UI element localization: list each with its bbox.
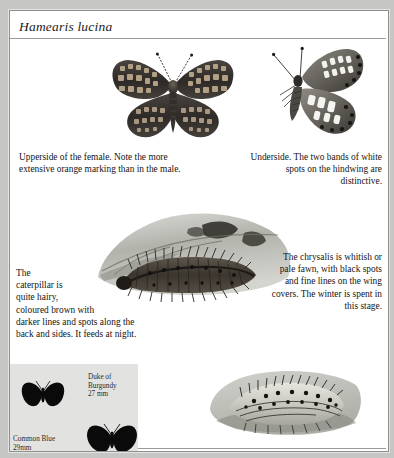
size-label-line: Common Blue xyxy=(13,435,55,444)
size-label-line: Burgundy xyxy=(88,382,117,391)
size-label-duke-of-burgundy: Duke of Burgundy 27 mm xyxy=(88,373,117,399)
page-title: Hamearis lucina xyxy=(19,19,112,35)
caption-line: quite hairy, xyxy=(16,291,226,303)
bottom-divider xyxy=(138,448,386,449)
size-label-line: Duke of xyxy=(88,373,117,382)
size-label-common-blue: Common Blue 29mm xyxy=(13,435,55,452)
size-label-measurement: 29mm xyxy=(13,444,55,452)
size-comparison-panel: Duke of Burgundy 27 mm Common Blue 29mm xyxy=(10,364,138,451)
caption-underside: Underside. The two bands of white spots … xyxy=(242,151,382,188)
size-label-measurement: 27 mm xyxy=(88,390,117,399)
caption-line: back and sides. It feeds at night. xyxy=(16,328,226,340)
caption-line: caterpillar is xyxy=(16,279,226,291)
caption-line: coloured brown with xyxy=(16,304,226,316)
butterfly-silhouette-common-blue xyxy=(86,421,138,452)
caption-caterpillar: The caterpillar is quite hairy, coloured… xyxy=(16,267,226,340)
caption-chrysalis: The chrysalis is whitish or pale fawn, w… xyxy=(268,251,382,312)
chrysalis-illustration xyxy=(206,363,366,441)
guide-page: Hamearis lucina xyxy=(0,0,394,458)
caption-line: darker lines and spots along the xyxy=(16,316,226,328)
caption-line: The xyxy=(16,267,226,279)
page-sheet: Hamearis lucina xyxy=(9,10,389,452)
caption-upperside: Upperside of the female. Note the more e… xyxy=(19,151,199,175)
butterfly-upperside-illustration xyxy=(106,37,240,149)
butterfly-underside-illustration xyxy=(262,33,380,145)
butterfly-silhouette-duke-of-burgundy xyxy=(20,378,66,412)
